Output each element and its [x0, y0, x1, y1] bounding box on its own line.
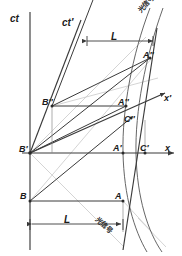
event-point-Bprime — [28, 151, 32, 155]
event-point-B — [29, 200, 32, 203]
event-label-C-prime: C′ — [140, 144, 149, 153]
a-worldline — [123, 28, 157, 250]
axes-and-worldlines — [22, 0, 174, 250]
event-label-A-double-prime-upper: A″ — [143, 51, 154, 60]
length-label-top: L — [111, 32, 117, 42]
segment-Bp-Adp — [30, 106, 126, 153]
segment-Bdp-Adp-upper — [52, 58, 150, 106]
diagram-canvas — [0, 0, 182, 256]
length-bar-top — [87, 36, 153, 46]
event-label-B: B — [20, 192, 27, 201]
light-cone-up-right — [30, 37, 146, 153]
length-label-bottom: L — [64, 215, 70, 225]
event-label-A-prime: A′ — [113, 144, 122, 153]
b-worldline-upper — [52, 0, 103, 106]
faint-parallel-xprime — [52, 78, 158, 106]
x-prime-axis-label: x′ — [164, 94, 171, 103]
spacetime-diagram-figure: ct ct′ x x′ L L A″ B″ A″ C″ B′ A′ C′ B A… — [0, 0, 182, 256]
event-label-B-prime: B′ — [19, 145, 28, 154]
hyperbola-outer — [136, 8, 163, 252]
event-points — [28, 57, 151, 203]
ct-prime-axis-label: ct′ — [62, 18, 73, 28]
event-label-B-double-prime: B″ — [42, 98, 53, 107]
x-axis-label: x — [165, 144, 170, 153]
event-label-C-double-prime: C″ — [124, 115, 135, 124]
event-label-A: A — [115, 192, 122, 201]
ct-axis-label: ct — [10, 14, 19, 24]
event-label-A-double-prime-mid: A″ — [118, 98, 129, 107]
invariant-hyperbolae — [123, 8, 163, 252]
